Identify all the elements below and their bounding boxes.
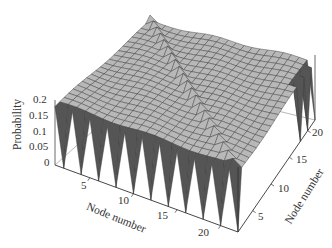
- x-tick-10: 10: [118, 195, 129, 206]
- z-tick-0.15: 0.15: [29, 110, 48, 121]
- z-axis-title: Probability: [12, 99, 24, 150]
- z-tick-0: 0: [44, 157, 50, 168]
- y-tick-15: 15: [296, 154, 307, 165]
- y-tick-5: 5: [258, 211, 264, 222]
- y-tick-10: 10: [278, 183, 289, 194]
- z-tick-0.1: 0.1: [33, 126, 47, 137]
- x-tick-15: 15: [157, 210, 168, 221]
- x-tick-5: 5: [81, 180, 87, 191]
- z-tick-0.2: 0.2: [33, 94, 47, 105]
- y-tick-20: 20: [312, 127, 323, 138]
- x-tick-20: 20: [198, 227, 209, 238]
- z-tick-0.05: 0.05: [29, 141, 48, 152]
